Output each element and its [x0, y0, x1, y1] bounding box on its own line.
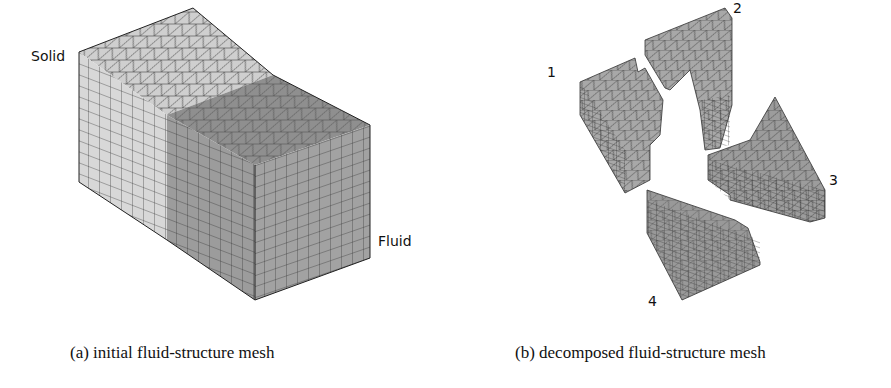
partition-1 [580, 58, 663, 193]
fluid-label: Fluid [378, 233, 412, 249]
partition-label-4: 4 [648, 293, 657, 309]
partition-label-3: 3 [829, 172, 838, 188]
partition-4 [647, 190, 760, 300]
initial-mesh-drawing [0, 0, 450, 330]
partition-label-1: 1 [547, 64, 556, 80]
solid-label: Solid [31, 48, 65, 64]
panel-initial-mesh: Solid Fluid [0, 0, 450, 330]
caption-a: (a) initial fluid-structure mesh [70, 343, 274, 363]
decomposed-mesh-drawing [520, 0, 891, 330]
panel-decomposed-mesh: 1 2 3 4 [520, 0, 891, 330]
caption-b: (b) decomposed fluid-structure mesh [515, 343, 766, 363]
partition-label-2: 2 [733, 0, 742, 16]
